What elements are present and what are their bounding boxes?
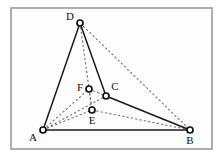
vertex-label-d: D — [66, 10, 74, 22]
vertex-marker-a — [40, 127, 46, 133]
vertex-label-c: C — [111, 80, 118, 92]
vertex-label-e: E — [89, 114, 96, 126]
figure-canvas: ABCDEF — [0, 0, 224, 160]
geometry-figure: ABCDEF — [0, 0, 224, 160]
vertex-marker-b — [187, 127, 193, 133]
vertex-marker-d — [77, 20, 83, 26]
vertex-marker-e — [89, 107, 95, 113]
vertex-label-b: B — [186, 134, 193, 146]
vertex-marker-f — [86, 86, 92, 92]
vertex-label-f: F — [77, 81, 83, 93]
vertex-label-a: A — [29, 131, 37, 143]
vertex-marker-c — [103, 93, 109, 99]
